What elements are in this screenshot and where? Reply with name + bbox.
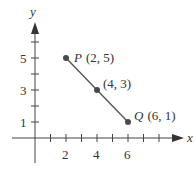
y-axis: y 1 3 5 (20, 4, 39, 163)
y-axis-label: y (28, 4, 36, 19)
x-tick-label-6: 6 (124, 147, 131, 162)
point-p-label: P(2, 5) (73, 50, 114, 65)
x-axis-arrow-icon (172, 134, 184, 142)
point-p-name: P (73, 50, 82, 65)
x-tick-label-4: 4 (93, 147, 100, 162)
point-p-coords: (2, 5) (86, 50, 114, 65)
point-q (125, 119, 131, 125)
y-tick-label-1: 1 (20, 115, 27, 130)
coordinate-plane-chart: x 2 4 6 y 1 3 5 (0, 0, 194, 170)
y-tick-label-5: 5 (20, 51, 27, 66)
point-q-name: Q (134, 108, 144, 123)
x-axis: x 2 4 6 (12, 130, 193, 162)
point-p (63, 55, 69, 61)
x-axis-label: x (186, 130, 193, 145)
point-mid-label: (4, 3) (103, 76, 131, 91)
y-axis-arrow-icon (31, 22, 39, 34)
x-tick-label-2: 2 (62, 147, 69, 162)
y-tick-label-3: 3 (20, 83, 27, 98)
point-midpoint (94, 87, 100, 93)
point-q-label: Q(6, 1) (134, 108, 176, 123)
point-q-coords: (6, 1) (147, 108, 175, 123)
